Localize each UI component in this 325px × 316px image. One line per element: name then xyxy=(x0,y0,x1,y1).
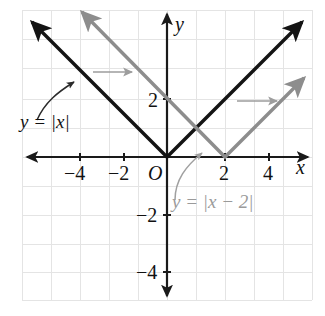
x-tick-label-2: 2 xyxy=(219,163,229,183)
function-label-y-abs-x-minus-2: y = |x − 2| xyxy=(172,192,253,211)
coordinate-plane-svg xyxy=(0,0,325,316)
function-label-y-abs-x: y = |x| xyxy=(20,112,70,131)
graph-figure: −4 −2 2 4 2 −2 −4 O y x y = |x| y = |x −… xyxy=(0,0,325,316)
y-tick-label-2: 2 xyxy=(148,90,158,110)
y-axis-name: y xyxy=(175,14,184,34)
origin-label: O xyxy=(148,162,162,185)
y-tick-label-minus-2: −2 xyxy=(136,205,157,225)
y-tick-label-minus-4: −4 xyxy=(136,262,157,282)
x-tick-label-minus-2: −2 xyxy=(108,163,129,183)
x-axis-name: x xyxy=(296,157,305,177)
x-tick-label-4: 4 xyxy=(263,163,273,183)
x-tick-label-minus-4: −4 xyxy=(64,163,85,183)
